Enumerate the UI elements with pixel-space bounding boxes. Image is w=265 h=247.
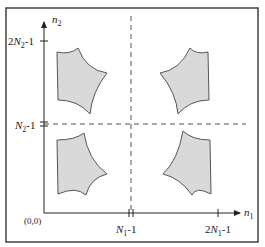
region-bottom-left — [57, 133, 107, 195]
region-top-left — [57, 48, 107, 114]
region-bottom-right — [163, 131, 211, 195]
origin-label: (0,0) — [24, 216, 41, 226]
x-tick-label-2N1-1: 2N1-1 — [205, 223, 231, 238]
x-axis-label: n1 — [244, 206, 254, 221]
x-tick-label-N1-1: N1-1 — [115, 223, 137, 238]
region-top-right — [160, 48, 209, 114]
y-tick-label-2N2-1: 2N2-1 — [8, 35, 34, 50]
y-axis-label: n2 — [52, 13, 62, 28]
y-tick-label-N2-1: N2-1 — [14, 119, 36, 134]
frequency-support-diagram: n2 n1 2N2-1 N2-1 N1-1 2N1-1 (0,0) — [0, 0, 265, 247]
